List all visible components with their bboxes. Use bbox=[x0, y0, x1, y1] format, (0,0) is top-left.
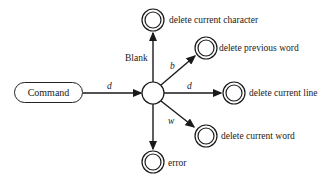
edge-label-b: b bbox=[170, 62, 175, 72]
edge-label-d-command: d bbox=[107, 82, 112, 92]
edge-label-d-line: d bbox=[187, 82, 192, 92]
state-label-delete-current-word: delete current word bbox=[221, 132, 295, 142]
state-label-delete-current-line: delete current line bbox=[249, 89, 318, 99]
state-label-delete-current-character: delete current character bbox=[169, 16, 258, 26]
state-label-delete-previous-word: delete previous word bbox=[219, 44, 299, 54]
center-state bbox=[142, 82, 164, 104]
edge-label-w: w bbox=[168, 117, 174, 127]
command-state: Command bbox=[14, 82, 83, 103]
state-label-error: error bbox=[168, 159, 186, 169]
edge-label-blank: Blank bbox=[125, 54, 148, 64]
